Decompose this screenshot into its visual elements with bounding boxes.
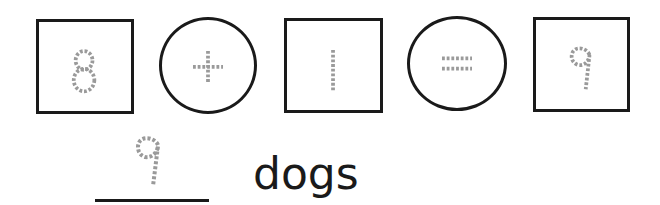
traced-digit-8: 8: [39, 22, 131, 111]
traced-digit-1: 1: [287, 21, 380, 110]
traced-equals-sign: =: [410, 19, 504, 108]
traced-plus-sign: +: [162, 20, 254, 111]
operator-circle-equals: =: [407, 16, 507, 111]
sum-box: 9: [533, 17, 630, 112]
addend-box-1: 8: [36, 19, 134, 114]
traced-digit-9: 9: [536, 20, 627, 109]
operator-circle-plus: +: [159, 17, 257, 114]
addend-box-2: 1: [284, 18, 383, 113]
answer-blank-line: [95, 199, 209, 202]
answer-unit-label: dogs: [253, 146, 359, 202]
answer-traced-digit-9: 9: [128, 136, 170, 190]
